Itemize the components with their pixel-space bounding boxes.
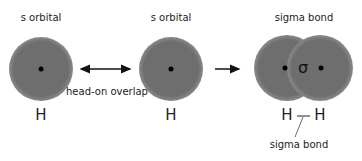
atom-label-3a: H (281, 106, 292, 124)
sigma-symbol: σ (298, 58, 308, 77)
title-sigma-bond: sigma bond (275, 12, 334, 23)
sigma-bond-label: sigma bond (270, 139, 329, 150)
leader-line (295, 117, 303, 137)
head-on-overlap-label: head-on overlap (66, 86, 148, 97)
title-s-orbital-2: s orbital (151, 12, 192, 23)
s-orbital-1 (9, 37, 73, 101)
atom-label-2: H (165, 106, 176, 124)
atom-label-1: H (35, 106, 46, 124)
atom-label-3b: H (314, 106, 325, 124)
diagram-canvas (0, 0, 362, 161)
title-s-orbital-1: s orbital (21, 12, 62, 23)
s-orbital-2 (139, 37, 203, 101)
